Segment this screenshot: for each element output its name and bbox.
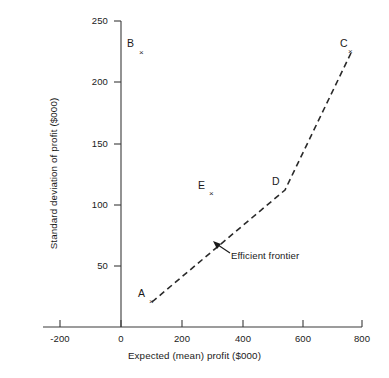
y-tick-label-150: 150 <box>62 139 108 149</box>
y-axis-title: Standard deviation of profit ($000) <box>48 74 59 274</box>
point-label-a: A <box>138 288 145 299</box>
point-marker-b: × <box>139 49 144 57</box>
point-label-e: E <box>198 180 205 191</box>
y-tick-label-250: 250 <box>62 16 108 26</box>
point-marker-a: × <box>149 298 154 306</box>
point-marker-e: × <box>209 190 214 198</box>
y-tick-label-200: 200 <box>62 77 108 87</box>
x-tick-label-200: 200 <box>174 334 190 344</box>
x-axis-ticks <box>60 320 362 327</box>
y-axis-ticks <box>114 21 121 266</box>
x-tick-label-400: 400 <box>235 334 251 344</box>
point-label-c: C <box>340 38 348 49</box>
x-tick-label-0: 0 <box>118 334 123 344</box>
point-label-b: B <box>127 38 134 49</box>
x-tick-label-800: 800 <box>354 334 370 344</box>
x-axis-title: Expected (mean) profit ($000) <box>0 350 389 361</box>
x-tick-label-600: 600 <box>295 334 311 344</box>
efficient-frontier-annotation: Efficient frontier <box>231 250 299 261</box>
efficient-frontier-line <box>152 53 351 302</box>
scatter-chart: 250 200 150 100 50 -200 0 200 400 600 80… <box>0 0 389 378</box>
y-tick-label-100: 100 <box>62 200 108 210</box>
point-marker-c: × <box>348 48 353 56</box>
y-tick-label-50: 50 <box>62 261 108 271</box>
point-label-d: D <box>272 176 280 187</box>
x-tick-label-minus200: -200 <box>50 334 69 344</box>
